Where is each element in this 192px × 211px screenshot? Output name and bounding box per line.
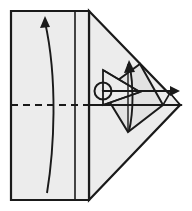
origami-diagram-svg	[0, 0, 192, 211]
origami-diagram-figure	[0, 0, 192, 211]
horizontal-pull-arrow-head-icon	[170, 86, 180, 96]
